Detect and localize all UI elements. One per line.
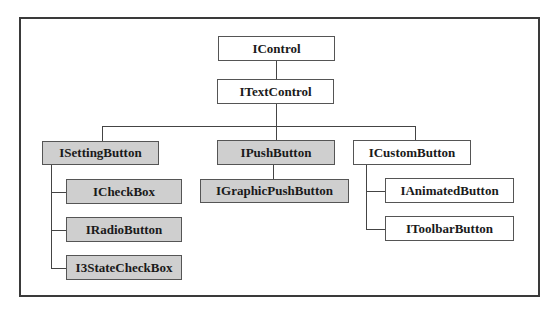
connector-to-isettingbutton (102, 126, 103, 141)
node-itoolbarbutton: IToolbarButton (385, 216, 514, 241)
connector-ipushbutton-igraphicpushbutton (273, 165, 274, 179)
connector-to-itoolbarbutton (366, 229, 385, 230)
node-ipushbutton: IPushButton (217, 140, 335, 165)
node-iradiobutton: IRadioButton (66, 217, 182, 242)
connector-itextcontrol-trunk (276, 104, 277, 140)
node-icustombutton: ICustomButton (353, 140, 471, 165)
connector-to-iradiobutton (51, 230, 66, 231)
connector-to-icheckbox (51, 192, 66, 193)
node-igraphicpushbutton: IGraphicPushButton (200, 179, 349, 203)
connector-icontrol-itextcontrol (276, 61, 277, 79)
connector-to-ianimatedbutton (366, 191, 385, 192)
node-icontrol: IControl (218, 36, 335, 61)
connector-to-i3statecheckbox (51, 268, 66, 269)
connector-isettingbutton-trunk (51, 165, 52, 268)
node-ianimatedbutton: IAnimatedButton (385, 178, 514, 203)
node-i3statecheckbox: I3StateCheckBox (66, 255, 182, 280)
node-icheckbox: ICheckBox (66, 179, 182, 204)
node-isettingbutton: ISettingButton (42, 141, 159, 165)
node-itextcontrol: ITextControl (217, 79, 334, 104)
connector-level2-bar (102, 126, 415, 127)
connector-icustombutton-trunk (366, 165, 367, 229)
connector-to-icustombutton (415, 126, 416, 140)
